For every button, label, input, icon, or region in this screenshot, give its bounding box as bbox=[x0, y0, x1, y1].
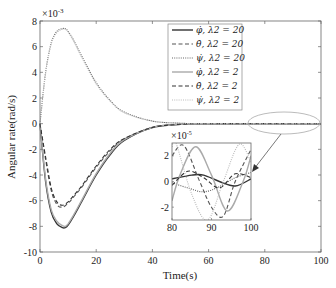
arrow-head-icon bbox=[252, 164, 259, 172]
inset-y-multiplier: ×10-5 bbox=[171, 130, 192, 141]
inset-y-tick-label: 0 bbox=[164, 176, 169, 187]
x-tick-label: 40 bbox=[147, 255, 157, 266]
zoom-arrow bbox=[254, 134, 281, 169]
y-axis-label: Angular rate(rad/s) bbox=[5, 95, 18, 179]
angular-rate-chart: 020406080100-10-8-6-4-202468 ×10-3 Time(… bbox=[0, 0, 336, 288]
inset-y-tick-label: -2 bbox=[161, 202, 169, 213]
legend-entry: φ̇, λ2 = 2 bbox=[196, 67, 239, 77]
x-tick-label: 80 bbox=[260, 255, 270, 266]
x-tick-label: 20 bbox=[91, 255, 101, 266]
inset-y-tick-label: 2 bbox=[164, 150, 169, 161]
y-tick-label: 2 bbox=[32, 93, 37, 104]
legend-entry: θ̇, λ2 = 2 bbox=[196, 81, 238, 91]
inset-plot: 8090100-202 ×10-5 bbox=[161, 130, 259, 233]
x-axis-label: Time(s) bbox=[163, 269, 198, 282]
x-tick-label: 100 bbox=[314, 255, 329, 266]
y-tick-label: 4 bbox=[32, 67, 37, 78]
legend-entry: ψ̇, λ2 = 2 bbox=[196, 95, 239, 105]
inset-x-tick-label: 90 bbox=[207, 222, 217, 233]
y-tick-label: 8 bbox=[32, 16, 37, 27]
legend-entry: φ̇, λ2 = 20 bbox=[196, 25, 244, 35]
y-tick-label: -2 bbox=[29, 144, 37, 155]
y-multiplier: ×10-3 bbox=[42, 7, 64, 19]
y-tick-label: -10 bbox=[24, 247, 37, 258]
y-tick-label: 0 bbox=[32, 118, 37, 129]
y-tick-label: -4 bbox=[29, 170, 37, 181]
inset-x-tick-label: 100 bbox=[244, 222, 259, 233]
y-tick-label: -6 bbox=[29, 195, 37, 206]
y-tick-label: -8 bbox=[29, 221, 37, 232]
legend-entry: θ̇, λ2 = 20 bbox=[196, 39, 244, 49]
inset-x-tick-label: 80 bbox=[167, 222, 177, 233]
legend: φ̇, λ2 = 20θ̇, λ2 = 20ψ̇, λ2 = 20φ̇, λ2 … bbox=[168, 24, 245, 110]
x-tick-label: 0 bbox=[38, 255, 43, 266]
legend-entry: ψ̇, λ2 = 20 bbox=[196, 53, 245, 63]
y-tick-label: 6 bbox=[32, 41, 37, 52]
x-tick-label: 60 bbox=[204, 255, 214, 266]
